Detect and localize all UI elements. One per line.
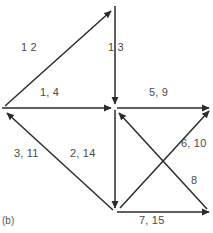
edge-label-center-to-bottom: 2, 14	[70, 147, 95, 159]
figure-directed-graph: 1 2 1 3 1, 4 5, 9 3, 11 2, 14 6, 10 8 7,…	[0, 0, 213, 233]
edge-label-center-to-bottomright: 8	[191, 174, 197, 186]
edge-label-top-to-center: 1 3	[108, 41, 124, 53]
figure-caption: (b)	[2, 215, 14, 226]
edge-label-center-to-right: 5, 9	[149, 86, 168, 98]
graph-canvas	[0, 0, 213, 233]
edge-label-left-to-top: 1 2	[21, 41, 37, 53]
edge-label-left-to-center: 1, 4	[40, 86, 59, 98]
edge-label-bottom-to-bottomright: 7, 15	[139, 214, 164, 226]
edge-label-bottom-to-left: 3, 11	[14, 147, 39, 159]
edge-center-to-bottomright	[120, 111, 209, 208]
edge-bottom-to-left	[7, 113, 113, 210]
edge-label-bottomright-to-center: 6, 10	[181, 137, 206, 149]
